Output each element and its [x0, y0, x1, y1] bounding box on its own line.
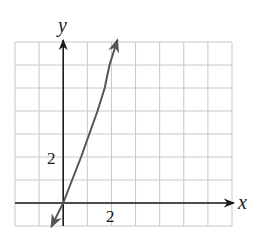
axes	[15, 40, 234, 226]
x-tick-label-2: 2	[106, 207, 115, 226]
y-tick-label-2: 2	[47, 149, 56, 168]
function-curve	[51, 40, 117, 227]
x-axis-label: x	[237, 191, 247, 213]
y-axis-label: y	[56, 14, 67, 37]
grid-lines	[15, 42, 232, 226]
graph: x y 2 2	[0, 0, 262, 236]
